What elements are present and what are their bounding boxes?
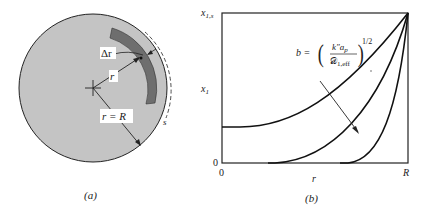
y-zero-label: 0 — [213, 157, 218, 168]
formula-b: b = ( k″ap 𝒟1,eff ) 1/2 — [296, 37, 372, 68]
y-mid-label: x1 — [200, 83, 209, 96]
increasing-b-arrow — [320, 81, 358, 132]
panel-a: Δr r r = R s (a) — [19, 14, 171, 202]
left-paren: ( — [318, 39, 324, 68]
r-equals-R-label: r = R — [102, 110, 126, 122]
figure: Δr r r = R s (a) b = ( k″ap 𝒟1,eff ) 1/2… — [0, 0, 433, 213]
curve-high-b — [340, 13, 408, 163]
x-R-label: R — [402, 167, 409, 178]
increasing-b-arrow-head — [352, 126, 359, 134]
formula-lhs: b = — [296, 47, 310, 58]
svg-text:𝒟1,eff: 𝒟1,eff — [330, 56, 351, 68]
svg-text:b =: b = — [296, 47, 310, 58]
plot-frame — [222, 13, 408, 163]
caption-a: (a) — [84, 189, 97, 202]
delta-r-label: Δr — [101, 47, 112, 59]
r-label: r — [110, 70, 115, 82]
svg-text:k″ap: k″ap — [332, 42, 348, 54]
y-top-label: x1,s — [200, 7, 214, 20]
curve-low-b — [222, 13, 408, 127]
x-zero-label: 0 — [219, 167, 224, 178]
x-axis-label: r — [312, 173, 316, 184]
shell-point — [140, 57, 143, 60]
stray-dot — [370, 70, 371, 71]
panel-b: b = ( k″ap 𝒟1,eff ) 1/2 x1,s x1 0 0 R r … — [200, 7, 409, 205]
surface-s-label: s — [163, 117, 167, 127]
caption-b: (b) — [305, 192, 318, 205]
svg-text:1/2: 1/2 — [362, 37, 372, 46]
